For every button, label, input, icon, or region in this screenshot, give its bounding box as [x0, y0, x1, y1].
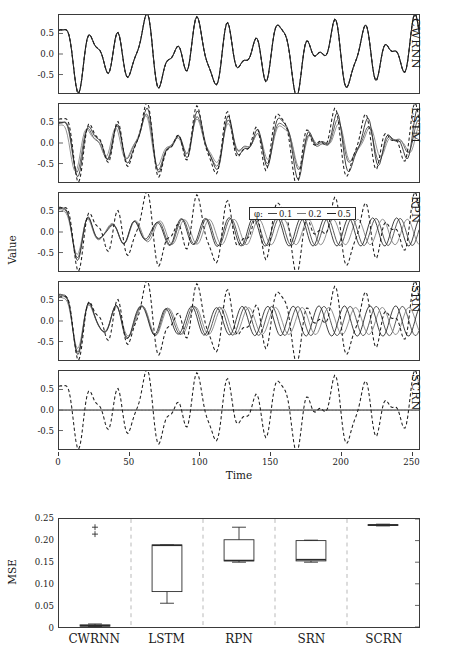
timeseries-panel-scrn: [58, 370, 420, 450]
boxplot-xlabel-cwrnn: CWRNN: [68, 632, 120, 646]
ytick-label: 0.0: [40, 49, 54, 59]
ytick-label: 0.0: [40, 227, 54, 237]
legend-title: φ:: [254, 209, 263, 219]
boxplot-ytick-label: 0.15: [0, 557, 54, 567]
ytick-label: 0.0: [40, 405, 54, 415]
xtick-label: 100: [191, 457, 207, 467]
timeseries-panel-rpn: [58, 192, 420, 272]
ytick-column-rpn: 0.50.0-0.5: [0, 192, 54, 272]
ytick-label: 0.5: [40, 28, 54, 38]
boxplot-section: MSE 0.250.200.150.100.050 CWRNNLSTMRPNSR…: [0, 510, 463, 671]
timeseries-panel-srn: [58, 281, 420, 361]
xtick-label: 200: [333, 457, 349, 467]
ytick-label: -0.5: [37, 426, 54, 436]
legend-item-0: 0.1: [268, 209, 292, 219]
timeseries-panel-cwrnn: [58, 14, 420, 94]
ytick-label: 0.5: [40, 384, 54, 394]
xtick-label: 250: [403, 457, 419, 467]
xtick-mark: [341, 452, 342, 456]
legend-swatch-0: [268, 213, 277, 214]
timeseries-xlabel: Time: [58, 469, 420, 481]
ytick-column-cwrnn: 0.50.0-0.5: [0, 14, 54, 94]
ytick-label: -0.5: [37, 337, 54, 347]
legend-label-2: 0.5: [338, 209, 351, 219]
ytick-column-scrn: 0.50.0-0.5: [0, 370, 54, 450]
legend-item-1: 0.2: [297, 209, 321, 219]
xtick-mark: [129, 452, 130, 456]
phi-legend: φ: 0.1 0.2 0.5: [249, 207, 356, 220]
timeseries-panel-lstm: [58, 103, 420, 183]
ytick-label: -0.5: [37, 70, 54, 80]
xtick-label: 0: [55, 457, 60, 467]
ytick-label: 0.0: [40, 316, 54, 326]
boxplot-xlabel-rpn: RPN: [225, 632, 253, 646]
ytick-label: -0.5: [37, 159, 54, 169]
xtick-label: 50: [123, 457, 134, 467]
ytick-label: 0.5: [40, 206, 54, 216]
ytick-label: 0.5: [40, 295, 54, 305]
panel-label-rpn: RPN: [409, 196, 423, 256]
panel-label-lstm: LSTM: [409, 107, 423, 167]
boxplot-ytick-label: 0.20: [0, 535, 54, 545]
ytick-label: 0.5: [40, 117, 54, 127]
timeseries-stack: Value 0.50.0-0.5CWRNN0.50.0-0.5LSTM0.50.…: [0, 0, 463, 500]
boxplot-axes: [58, 518, 420, 628]
panel-label-cwrnn: CWRNN: [409, 18, 423, 78]
xtick-mark: [58, 452, 59, 456]
legend-item-2: 0.5: [327, 209, 351, 219]
boxplot-ytick-label: 0.05: [0, 601, 54, 611]
panel-label-scrn: SCRN: [409, 374, 423, 434]
figure-root: Value 0.50.0-0.5CWRNN0.50.0-0.5LSTM0.50.…: [0, 0, 463, 671]
ytick-label: 0.0: [40, 138, 54, 148]
ytick-column-srn: 0.50.0-0.5: [0, 281, 54, 361]
ytick-column-lstm: 0.50.0-0.5: [0, 103, 54, 183]
boxplot-ytick-label: 0.25: [0, 513, 54, 523]
xtick-mark: [412, 452, 413, 456]
xtick-mark: [270, 452, 271, 456]
panel-label-srn: SRN: [409, 285, 423, 345]
legend-swatch-2: [327, 213, 336, 214]
legend-swatch-1: [297, 213, 306, 214]
ytick-label: -0.5: [37, 248, 54, 258]
boxplot-xlabel-srn: SRN: [298, 632, 326, 646]
boxplot-xlabel-scrn: SCRN: [365, 632, 402, 646]
boxplot-xlabel-lstm: LSTM: [148, 632, 184, 646]
boxplot-ytick-label: 0: [0, 623, 54, 633]
legend-label-0: 0.1: [279, 209, 292, 219]
xtick-label: 150: [262, 457, 278, 467]
legend-label-1: 0.2: [308, 209, 321, 219]
xtick-mark: [199, 452, 200, 456]
boxplot-ytick-label: 0.10: [0, 579, 54, 589]
